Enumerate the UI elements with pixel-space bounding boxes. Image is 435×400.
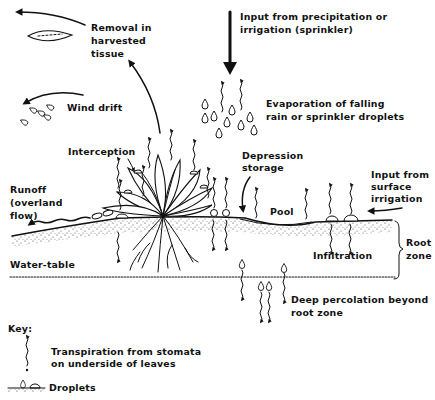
surface-irrigation-label-1: Input from [371,169,429,180]
runoff: Runoff (overland flow) [10,184,128,224]
evaporation-label-1: Evaporation of falling [266,98,385,109]
precipitation-input: Input from precipitation or irrigation (… [223,11,387,75]
down-arrow-icon [223,62,237,75]
interception-label: Interception [68,146,135,157]
legend-transpiration-label-1: Transpiration from stomata [51,346,201,357]
legend: Key: Transpiration from stomata on under… [8,323,201,393]
infiltration-label: Infiltration [313,250,372,261]
deep-percolation-label-1: Deep percolation beyond [291,294,428,305]
surface-irrigation-label-3: irrigation [371,193,423,204]
root-zone: Root zone [394,221,432,279]
root-zone-label-1: Root [406,237,432,248]
removal-label-2: harvested [91,35,146,46]
falling-droplets: Evaporation of falling rain or sprinkler… [202,80,404,138]
water-table: Water-table [10,259,395,277]
depression-label-2: storage [242,162,284,173]
surface-droplets-mid [211,178,230,250]
evaporation-label-2: rain or sprinkler droplets [266,111,404,122]
removal-label-3: tissue [91,48,124,59]
runoff-label-3: flow) [10,210,38,221]
legend-title: Key: [8,323,32,334]
surface-irrigation-label-2: surface [371,181,412,192]
harvested-leaf-icon [28,31,72,41]
harvest-removal: Removal in harvested tissue [18,12,160,133]
wind-drift: Wind drift [19,93,122,126]
droplets-symbol-icon [8,380,45,392]
precipitation-label-2: irrigation (sprinkler) [240,24,353,35]
interception: Interception [68,146,135,170]
root-zone-label-2: zone [406,250,432,261]
surface-irrigation: Input from surface irrigation [370,169,429,211]
runoff-label-2: (overland [10,197,63,208]
wind-drift-label: Wind drift [67,102,123,113]
depression-label-1: Depression [242,150,303,161]
deep-percolation: Deep percolation beyond root zone [239,260,428,323]
water-cycle-diagram: Input from precipitation or irrigation (… [0,0,435,400]
harvest-arrow [130,62,160,133]
pool-label: Pool [270,206,294,217]
transpiration-symbol-icon [26,336,28,371]
legend-droplets-label: Droplets [49,382,96,393]
runoff-label-1: Runoff [10,184,47,195]
deep-percolation-label-2: root zone [291,307,343,318]
removal-label-1: Removal in [91,22,152,33]
precipitation-label-1: Input from precipitation or [240,11,387,22]
legend-transpiration-label-2: on underside of leaves [51,358,176,369]
depression-storage: Depression storage Pool [242,150,307,219]
water-table-label: Water-table [10,259,75,270]
